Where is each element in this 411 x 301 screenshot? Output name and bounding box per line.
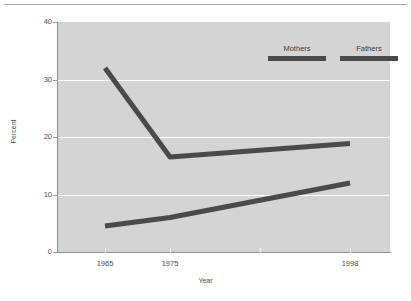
legend-swatch-mothers: [268, 56, 326, 61]
y-axis-line: [57, 22, 58, 253]
x-tick-1965: 1965: [80, 259, 130, 269]
legend-label: Mothers: [268, 44, 326, 53]
y-tick-mark-0: [53, 252, 57, 253]
y-tick-mark-20: [53, 137, 57, 138]
x-tick-label: 1965: [80, 259, 130, 269]
line-chart-figure: 40 30 20 10 0 1965 1975 1998 Year Percen…: [0, 0, 411, 301]
x-tick-1998: 1998: [325, 259, 375, 269]
x-tick-mark-mid: [260, 248, 261, 253]
x-tick-mark-1998: [350, 248, 351, 253]
x-tick-mark-1975: [170, 248, 171, 253]
x-axis-line: [57, 252, 391, 253]
series-line-fathers: [105, 183, 350, 226]
y-tick-label: 40: [26, 18, 52, 26]
y-axis-title: Percent: [10, 109, 17, 155]
chart-legend: Mothers Fathers: [268, 44, 398, 70]
y-tick-label: 0: [26, 248, 52, 256]
y-tick-label: 20: [26, 133, 52, 141]
y-tick-0: 0: [26, 248, 52, 256]
x-tick-mark-1965: [105, 248, 106, 253]
x-tick-1975: 1975: [145, 259, 195, 269]
y-tick-label: 30: [26, 76, 52, 84]
y-tick-mark-30: [53, 80, 57, 81]
top-divider: [4, 4, 407, 5]
series-line-mothers: [105, 68, 350, 157]
y-tick-mark-10: [53, 195, 57, 196]
x-tick-label: 1998: [325, 259, 375, 269]
y-tick-30: 30: [26, 76, 52, 84]
y-tick-20: 20: [26, 133, 52, 141]
y-tick-label: 10: [26, 191, 52, 199]
y-tick-mark-40: [53, 22, 57, 23]
legend-entry-mothers: Mothers: [268, 44, 326, 61]
x-axis-title: Year: [0, 277, 411, 284]
legend-entry-fathers: Fathers: [340, 44, 398, 61]
y-tick-40: 40: [26, 18, 52, 26]
y-tick-10: 10: [26, 191, 52, 199]
legend-swatch-fathers: [340, 56, 398, 61]
legend-label: Fathers: [340, 44, 398, 53]
x-tick-label: 1975: [145, 259, 195, 269]
